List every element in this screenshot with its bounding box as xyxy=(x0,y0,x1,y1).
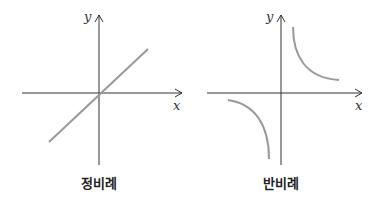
inverse-proportion-graph: x y xyxy=(207,9,363,165)
y-axis-label: y xyxy=(265,9,274,24)
x-axis-label: x xyxy=(173,98,181,113)
caption-direct-proportion: 정비례 xyxy=(81,173,117,192)
caption-inverse-proportion: 반비례 xyxy=(263,173,299,192)
y-axis-label: y xyxy=(83,9,92,24)
direct-proportion-graph: x y xyxy=(22,9,182,165)
hyperbola-lower xyxy=(228,100,269,159)
x-axis-label: x xyxy=(355,98,363,113)
hyperbola-upper xyxy=(293,27,339,80)
proportion-diagrams: x y x y xyxy=(0,0,379,198)
